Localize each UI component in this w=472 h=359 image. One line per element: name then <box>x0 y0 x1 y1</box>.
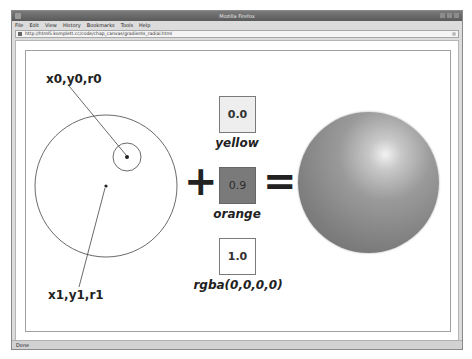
color-stop-0-offset: 0.0 <box>228 108 248 121</box>
end-label-leader <box>79 188 105 287</box>
color-stop-1-offset: 0.9 <box>229 179 247 192</box>
color-stop-0-swatch: 0.0 <box>219 96 256 133</box>
color-stop-0-name: yellow <box>215 136 259 150</box>
start-center-dot <box>125 155 129 159</box>
color-stop-1-name: orange <box>213 207 261 221</box>
plus-symbol: + <box>184 161 218 201</box>
color-stop-1-swatch: 0.9 <box>219 167 256 204</box>
end-center-dot <box>104 184 107 187</box>
start-label-leader <box>69 86 126 155</box>
color-stop-2-swatch: 1.0 <box>219 238 256 275</box>
equals-symbol: = <box>263 161 297 201</box>
start-circle-label: x0,y0,r0 <box>46 72 102 86</box>
result-sphere <box>298 112 439 253</box>
end-circle-label: x1,y1,r1 <box>48 288 104 302</box>
color-stop-2-name: rgba(0,0,0,0) <box>193 278 282 292</box>
color-stop-2-offset: 1.0 <box>228 250 248 263</box>
